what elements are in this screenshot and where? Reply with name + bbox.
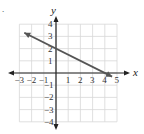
problem-marker: .	[2, 4, 4, 14]
x-axis-label: x	[132, 66, 138, 78]
y-tick-label: −1	[44, 80, 54, 90]
y-tick-label: −3	[44, 105, 54, 115]
coordinate-graph: . x y −3−2−112345 4321−1−2−3−4	[0, 0, 144, 134]
x-tick-label: 5	[115, 75, 120, 85]
x-axis-left-arrow-icon	[8, 71, 14, 76]
y-axis-label: y	[50, 4, 56, 16]
y-axis-down-arrow-icon	[54, 124, 59, 130]
y-tick-label: 1	[48, 56, 53, 66]
x-tick-label: 2	[78, 75, 83, 85]
y-tick-label: −2	[44, 92, 54, 102]
x-tick-label: −2	[27, 75, 37, 85]
y-tick-label: 4	[48, 19, 53, 29]
x-tick-label: 1	[66, 75, 71, 85]
y-axis-up-arrow-icon	[54, 16, 59, 22]
y-tick-label: −4	[44, 117, 54, 127]
y-tick-label: 3	[48, 31, 53, 41]
x-tick-label: −3	[14, 75, 24, 85]
x-tick-label: 3	[90, 75, 95, 85]
x-tick-labels: −3−2−112345	[14, 75, 119, 85]
x-axis-right-arrow-icon	[124, 71, 130, 76]
